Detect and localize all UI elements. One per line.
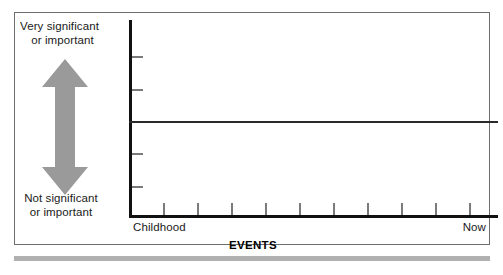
baseline-midline [129,121,498,123]
x-axis-tick [231,203,233,215]
y-axis-bottom-label-line2: or important [15,205,107,219]
x-axis-tick [367,203,369,215]
y-axis-top-label-line1: Very significant [20,20,99,32]
y-axis-tick [132,186,143,188]
x-axis-tick [401,203,403,215]
y-axis-tick [132,56,143,58]
x-axis-tick [265,203,267,215]
x-axis-tick [197,203,199,215]
x-axis-start-label: Childhood [133,221,186,233]
y-axis-tick [132,153,143,155]
y-axis-tick [132,89,143,91]
bottom-decorative-rule [14,256,490,261]
y-axis-bottom-label: Not significant or important [15,191,111,219]
y-axis-line [129,20,132,218]
y-axis-top-label-line2: or important [20,33,111,47]
y-axis-top-label: Very significant or important [15,19,111,47]
x-axis-tick [299,203,301,215]
x-axis-end-label: Now [463,221,486,233]
x-axis-tick [435,203,437,215]
x-axis-title: EVENTS [15,239,491,251]
plot-area: Childhood Now [111,13,491,244]
figure-frame: Very significant or important Not signif… [14,12,490,245]
y-axis-bottom-label-line1: Not significant [24,192,98,204]
double-headed-vertical-arrow-icon [41,57,89,197]
y-axis-legend-column: Very significant or important Not signif… [15,13,111,244]
x-axis-tick [163,203,165,215]
x-axis-tick [469,203,471,215]
x-axis-tick [333,203,335,215]
x-axis-line [129,215,498,218]
